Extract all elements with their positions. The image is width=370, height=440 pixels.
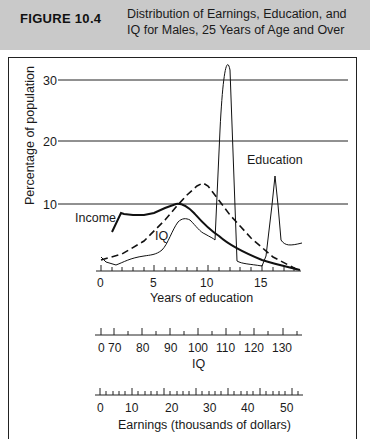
earn-tick-10: 10 (125, 401, 139, 415)
chart-canvas: Percentage of population 30 20 10 0 5 10… (0, 0, 370, 440)
income-curve (112, 204, 300, 270)
earn-tick-40: 40 (241, 401, 255, 415)
iq-tick-labels: 0 70 80 90 100 110 120 130 (98, 341, 292, 355)
gridlines (58, 80, 348, 204)
earnings-tick-labels: 0 10 20 30 40 50 (97, 401, 294, 415)
iq-axis (95, 328, 302, 335)
iq-tick-70: 70 (108, 341, 122, 355)
earnings-axis (95, 388, 303, 395)
edu-tick-0: 0 (97, 276, 104, 290)
edu-tick-10: 10 (200, 276, 214, 290)
iq-tick-110: 110 (216, 341, 235, 355)
earn-tick-30: 30 (203, 401, 217, 415)
earnings-axis-label: Earnings (thousands of dollars) (118, 418, 291, 432)
iq-tick-80: 80 (136, 341, 150, 355)
education-axis-label: Years of education (150, 291, 253, 305)
iq-curve (101, 183, 300, 271)
y-ticks: 30 20 10 (43, 74, 57, 212)
edu-tick-5: 5 (150, 276, 157, 290)
y-tick-30: 30 (43, 74, 57, 88)
y-tick-10: 10 (43, 198, 57, 212)
y-axis-label: Percentage of population (23, 66, 37, 205)
education-axis (96, 265, 301, 271)
y-tick-20: 20 (43, 135, 57, 149)
iq-tick-90: 90 (164, 341, 178, 355)
iq-tick-130: 130 (272, 341, 292, 355)
earn-tick-0: 0 (97, 401, 104, 415)
earn-tick-20: 20 (165, 401, 179, 415)
iq-axis-label: IQ (192, 357, 205, 371)
education-annotation: Education (247, 153, 303, 167)
iq-tick-100: 100 (188, 341, 208, 355)
iq-annotation: IQ (155, 229, 168, 243)
income-annotation: Income (75, 211, 116, 225)
iq-tick-0: 0 (98, 341, 105, 355)
education-tick-labels: 0 5 10 15 (97, 276, 268, 290)
iq-tick-120: 120 (244, 341, 264, 355)
edu-tick-15: 15 (254, 276, 268, 290)
earn-tick-50: 50 (280, 401, 294, 415)
